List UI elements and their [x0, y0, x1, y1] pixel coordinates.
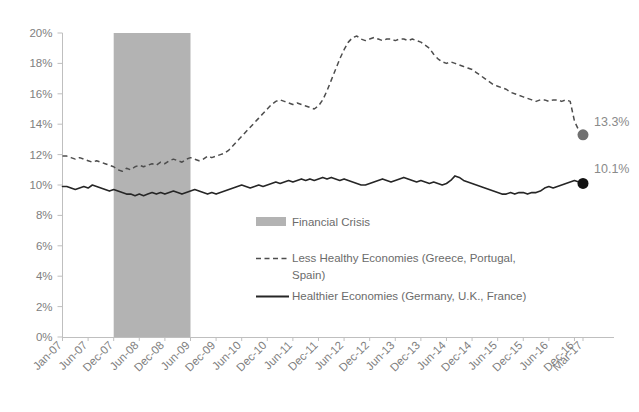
- y-tick-label: 18%: [29, 57, 52, 69]
- y-tick-label: 0%: [36, 331, 53, 343]
- endpoint-label-healthier: 10.1%: [594, 162, 629, 176]
- chart-legend: Financial Crisis Less Healthy Economies …: [256, 216, 527, 302]
- x-axis-labels: Jan-07Jun-07Dec-07Jun-08Dec-08Jun-09Dec-…: [31, 339, 585, 374]
- legend-label-healthier: Healthier Economies (Germany, U.K., Fran…: [292, 290, 527, 302]
- unemployment-rate-line-chart: 13.3% 10.1% Financial Crisis Less Health…: [0, 0, 639, 412]
- y-tick-label: 14%: [29, 118, 52, 130]
- y-tick-label: 2%: [36, 301, 53, 313]
- legend-label-less-healthy-line2: Spain): [292, 269, 325, 281]
- chart-container: 13.3% 10.1% Financial Crisis Less Health…: [0, 0, 639, 412]
- endpoint-marker-healthier: [578, 178, 589, 189]
- financial-crisis-band: [114, 33, 191, 337]
- y-tick-label: 16%: [29, 88, 52, 100]
- y-tick-label: 20%: [29, 27, 52, 39]
- y-axis-labels: 0%2%4%6%8%10%12%14%16%18%20%: [29, 27, 52, 343]
- y-tick-label: 4%: [36, 270, 53, 282]
- legend-swatch-financial-crisis: [256, 217, 286, 226]
- y-tick-label: 10%: [29, 179, 52, 191]
- y-tick-label: 8%: [36, 209, 53, 221]
- endpoint-label-less-healthy: 13.3%: [594, 115, 629, 129]
- legend-label-financial-crisis: Financial Crisis: [292, 216, 370, 228]
- y-axis-ticks: [58, 33, 63, 337]
- endpoint-marker-less-healthy: [578, 129, 589, 140]
- legend-label-less-healthy: Less Healthy Economies (Greece, Portugal…: [292, 252, 516, 264]
- y-tick-label: 12%: [29, 149, 52, 161]
- y-tick-label: 6%: [36, 240, 53, 252]
